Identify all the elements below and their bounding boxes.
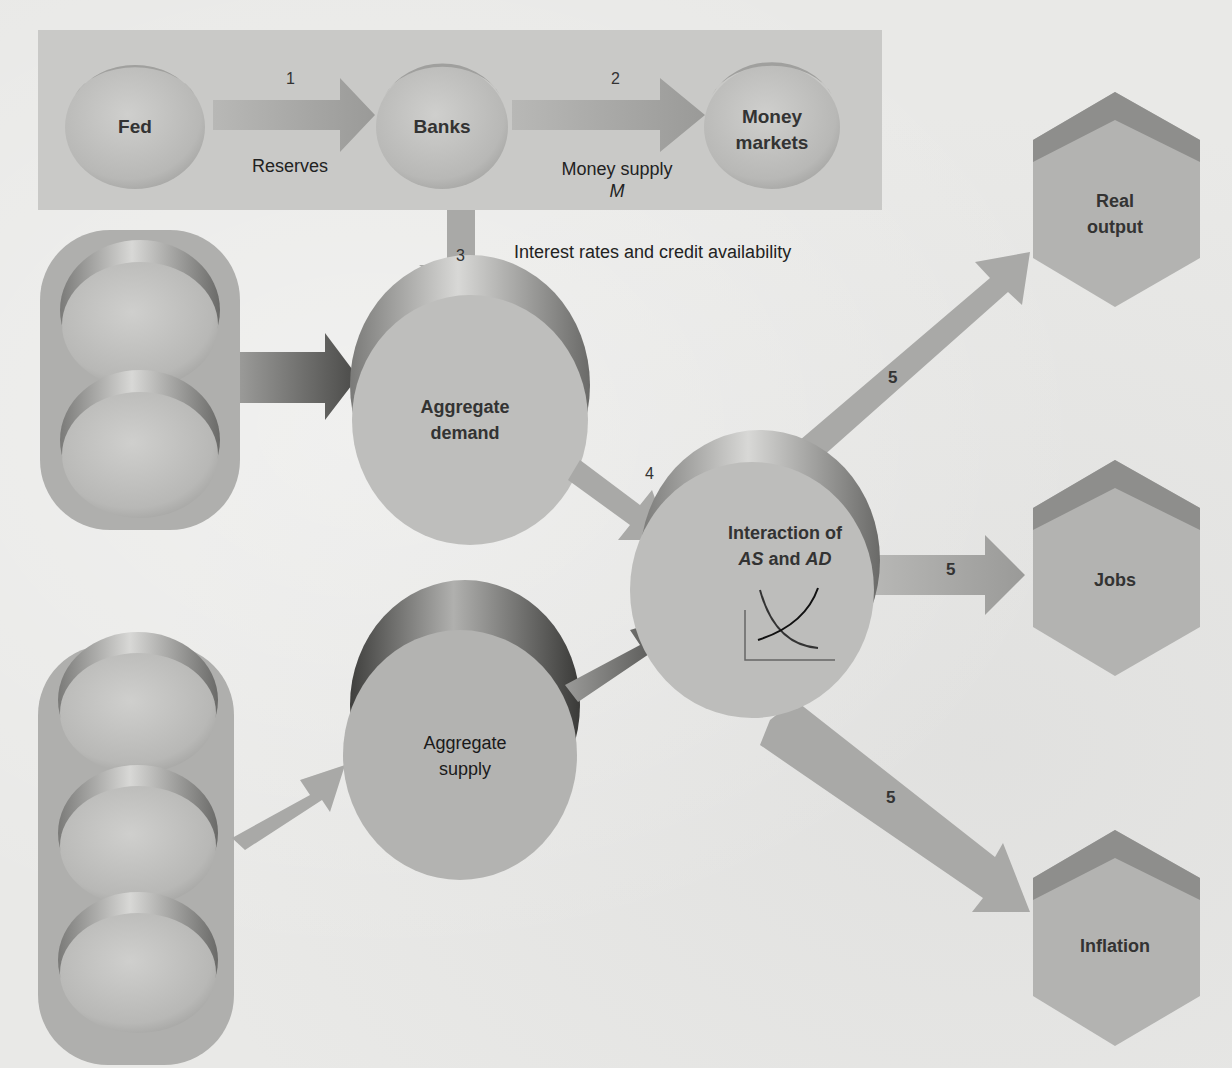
aggregate-demand-line1: Aggregate — [395, 394, 535, 420]
interaction-shape — [630, 430, 880, 718]
money-markets-line2: markets — [722, 130, 822, 156]
money-markets-label: Money markets — [722, 104, 822, 156]
aggregate-supply-line2: supply — [405, 756, 525, 782]
as-symbol: AS — [738, 549, 763, 569]
aggregate-demand-label: Aggregate demand — [395, 394, 535, 446]
interaction-label: Interaction of AS and AD — [705, 520, 865, 572]
money-supply-symbol: M — [552, 180, 682, 202]
aggregate-supply-label: Aggregate supply — [405, 730, 525, 782]
interaction-line1: Interaction of — [705, 520, 865, 546]
real-output-label: Real output — [1065, 188, 1165, 240]
fed-label: Fed — [95, 114, 175, 140]
money-supply-label: Money supply M — [552, 158, 682, 202]
step-4-number: 4 — [645, 465, 654, 483]
money-supply-text: Money supply — [552, 158, 682, 180]
step-5-inflation-number: 5 — [886, 788, 895, 808]
step-3-number: 3 — [456, 247, 465, 265]
real-output-line1: Real — [1065, 188, 1165, 214]
step-5-jobs-number: 5 — [946, 560, 955, 580]
aggregate-demand-line2: demand — [395, 420, 535, 446]
interaction-line2: AS and AD — [705, 546, 865, 572]
reserves-label: Reserves — [252, 156, 328, 177]
ad-symbol: AD — [806, 549, 832, 569]
step-2-number: 2 — [611, 70, 620, 88]
step-1-number: 1 — [286, 70, 295, 88]
real-output-line2: output — [1065, 214, 1165, 240]
step-5-real-output-number: 5 — [888, 368, 897, 388]
aggregate-supply-line1: Aggregate — [405, 730, 525, 756]
and-word: and — [769, 549, 801, 569]
jobs-label: Jobs — [1065, 567, 1165, 593]
interest-rates-label: Interest rates and credit availability — [514, 242, 791, 263]
inflation-label: Inflation — [1055, 933, 1175, 959]
money-markets-line1: Money — [722, 104, 822, 130]
banks-label: Banks — [400, 114, 484, 140]
